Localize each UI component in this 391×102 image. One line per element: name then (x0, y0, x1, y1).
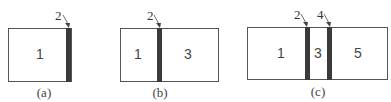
diagram-b-caption: (b) (152, 85, 167, 101)
diagram-c-region-1: 1 (277, 45, 285, 61)
diagram-c-layer-2 (305, 27, 310, 80)
diagram-a-region-1: 1 (36, 46, 44, 62)
diagram-c-region-3: 3 (314, 45, 322, 61)
diagram-c-layer-4 (327, 27, 332, 80)
diagram-b-layer-2 (157, 28, 162, 82)
arrow-icon (153, 14, 163, 28)
arrow-icon (323, 13, 333, 27)
diagram-a-layer-2 (66, 28, 71, 82)
diagram-b-region-3: 3 (184, 46, 192, 62)
diagram-b-region-1: 1 (134, 46, 142, 62)
arrow-icon (300, 13, 310, 27)
diagram-c-caption: (c) (311, 84, 325, 100)
diagram-a-caption: (a) (37, 85, 51, 101)
arrow-icon (62, 14, 72, 28)
diagram-a-layer-label-2: 2 (55, 8, 62, 24)
diagram-c-region-5: 5 (354, 45, 362, 61)
